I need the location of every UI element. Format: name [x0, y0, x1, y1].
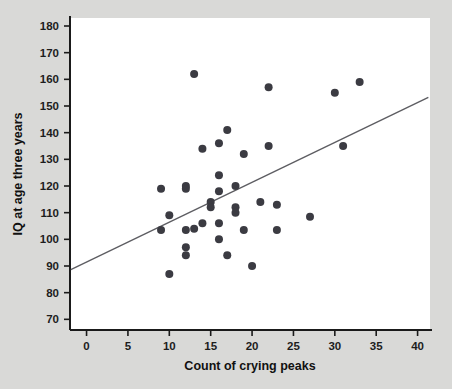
data-point — [248, 262, 256, 270]
data-point — [356, 78, 364, 86]
data-point — [215, 187, 223, 195]
x-axis-title: Count of crying peaks — [184, 359, 315, 373]
data-point — [240, 150, 248, 158]
data-point — [215, 171, 223, 179]
x-tick-label: 35 — [370, 340, 383, 352]
x-tick-label: 40 — [411, 340, 424, 352]
scatter-plot-figure: 7080901001101201301401501601701800510152… — [0, 0, 452, 389]
data-point — [157, 185, 165, 193]
data-point — [331, 89, 339, 97]
x-tick-label: 10 — [163, 340, 176, 352]
trend-line — [71, 97, 429, 269]
data-point — [190, 70, 198, 78]
data-point — [306, 213, 314, 221]
data-point — [182, 243, 190, 251]
y-tick-label: 110 — [40, 207, 59, 219]
y-tick-label: 70 — [46, 313, 59, 325]
data-point — [265, 142, 273, 150]
data-point — [165, 270, 173, 278]
data-point — [207, 203, 215, 211]
y-tick-label: 80 — [46, 287, 59, 299]
data-point — [198, 145, 206, 153]
x-tick-label: 0 — [83, 340, 89, 352]
data-point — [198, 219, 206, 227]
data-point — [240, 226, 248, 234]
data-point — [182, 251, 190, 259]
data-point — [273, 201, 281, 209]
y-tick-label: 120 — [40, 180, 59, 192]
data-point — [157, 226, 165, 234]
data-point — [215, 235, 223, 243]
data-point — [190, 225, 198, 233]
data-point — [215, 219, 223, 227]
x-tick-label: 20 — [246, 340, 259, 352]
y-tick-label: 160 — [40, 73, 59, 85]
data-point — [165, 211, 173, 219]
data-point — [273, 226, 281, 234]
scatter-chart: 7080901001101201301401501601701800510152… — [0, 0, 452, 389]
x-tick-label: 30 — [328, 340, 341, 352]
data-point — [223, 126, 231, 134]
y-tick-label: 130 — [40, 153, 59, 165]
x-tick-label: 25 — [287, 340, 300, 352]
data-point — [182, 185, 190, 193]
data-point — [182, 226, 190, 234]
y-tick-label: 180 — [40, 20, 59, 32]
data-point — [339, 142, 347, 150]
data-point — [232, 209, 240, 217]
y-tick-label: 100 — [40, 233, 59, 245]
y-tick-label: 150 — [40, 100, 59, 112]
data-point — [265, 83, 273, 91]
data-point — [256, 198, 264, 206]
y-axis-title: IQ at age three years — [11, 112, 25, 235]
x-tick-label: 15 — [204, 340, 217, 352]
data-point — [215, 139, 223, 147]
y-tick-label: 140 — [40, 127, 59, 139]
data-point — [232, 182, 240, 190]
data-point — [223, 251, 231, 259]
x-tick-label: 5 — [125, 340, 132, 352]
y-tick-label: 90 — [46, 260, 59, 272]
y-tick-label: 170 — [40, 47, 59, 59]
